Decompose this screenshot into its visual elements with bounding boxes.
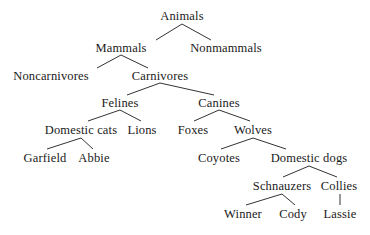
- tree-node-wolves: Wolves: [234, 124, 272, 137]
- tree-edge-animals-to-nonmammals: [182, 24, 211, 40]
- tree-edge-domestic-dogs-to-schnauzers: [283, 166, 309, 177]
- tree-edge-felines-to-lions: [120, 110, 141, 121]
- tree-node-domestic-cats: Domestic cats: [45, 124, 117, 137]
- tree-edge-carnivores-to-felines: [127, 83, 160, 95]
- tree-edge-felines-to-domestic-cats: [88, 110, 120, 121]
- tree-edge-domestic-cats-to-abbie: [81, 138, 93, 149]
- taxonomy-tree-diagram: AnimalsMammalsNonmammalsNoncarnivoresCar…: [0, 0, 370, 235]
- tree-edge-canines-to-foxes: [194, 110, 219, 121]
- tree-node-lassie: Lassie: [324, 208, 357, 221]
- tree-node-lions: Lions: [127, 124, 156, 137]
- tree-node-animals: Animals: [160, 10, 203, 23]
- tree-edge-mammals-to-carnivores: [121, 55, 148, 68]
- tree-edge-domestic-cats-to-garfield: [47, 138, 81, 149]
- tree-edge-wolves-to-domestic-dogs: [253, 138, 286, 149]
- tree-node-cody: Cody: [279, 208, 307, 221]
- tree-edge-wolves-to-coyotes: [221, 138, 253, 149]
- tree-edge-schnauzers-to-cody: [282, 194, 295, 205]
- tree-node-garfield: Garfield: [24, 152, 67, 165]
- tree-edge-layer: [0, 0, 370, 235]
- tree-node-canines: Canines: [198, 97, 239, 110]
- tree-node-nonmammals: Nonmammals: [190, 42, 262, 55]
- tree-node-winner: Winner: [224, 208, 262, 221]
- tree-node-felines: Felines: [101, 97, 138, 110]
- tree-node-mammals: Mammals: [95, 42, 146, 55]
- tree-edge-canines-to-wolves: [219, 110, 250, 121]
- tree-edge-domestic-dogs-to-collies: [309, 166, 337, 177]
- tree-node-abbie: Abbie: [78, 152, 109, 165]
- tree-node-domestic-dogs: Domestic dogs: [271, 152, 348, 165]
- tree-edge-animals-to-mammals: [156, 24, 182, 40]
- tree-edge-schnauzers-to-winner: [246, 194, 282, 205]
- tree-node-carnivores: Carnivores: [132, 70, 188, 83]
- tree-edge-mammals-to-noncarnivores: [97, 55, 121, 68]
- tree-node-foxes: Foxes: [178, 124, 209, 137]
- tree-node-collies: Collies: [321, 180, 357, 193]
- tree-node-schnauzers: Schnauzers: [253, 180, 311, 193]
- tree-edge-carnivores-to-canines: [160, 83, 214, 95]
- tree-node-noncarnivores: Noncarnivores: [13, 70, 89, 83]
- tree-node-coyotes: Coyotes: [198, 152, 240, 165]
